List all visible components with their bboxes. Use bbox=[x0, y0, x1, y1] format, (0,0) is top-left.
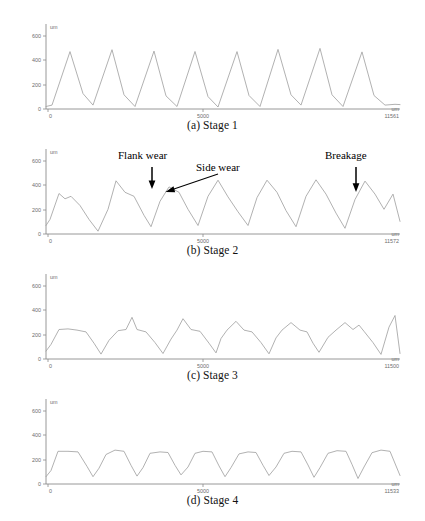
axes-stage-4 bbox=[43, 399, 400, 487]
y-tick-600: 600 bbox=[32, 408, 41, 414]
y-axis-unit-label: um bbox=[50, 399, 58, 405]
chart-panel-stage-2: 0 200 400 600 0 5000 um um 11572 bbox=[0, 139, 425, 264]
tick-labels-stage-2: 0 200 400 600 0 5000 um um 11572 bbox=[32, 149, 399, 244]
y-tick-200: 200 bbox=[32, 457, 41, 463]
caption-stage-4: (d) Stage 4 bbox=[0, 494, 425, 506]
svg-chart-stage-4: 0 200 400 600 0 5000 um um 11533 bbox=[0, 389, 425, 496]
plot-area-stage-2: 0 200 400 600 0 5000 um um 11572 bbox=[0, 139, 425, 246]
plot-area-stage-1: 0 200 400 600 0 5000 um um 11561 bbox=[0, 14, 425, 121]
y-tick-200: 200 bbox=[32, 207, 41, 213]
y-tick-400: 400 bbox=[32, 182, 41, 188]
y-tick-400: 400 bbox=[32, 432, 41, 438]
axes-stage-1 bbox=[43, 24, 400, 112]
chart-panel-stage-1: 0 200 400 600 0 5000 um um 11561 (a) Sta… bbox=[0, 14, 425, 139]
plot-area-stage-3: 0 200 400 600 0 5000 um um 11500 bbox=[0, 264, 425, 371]
tick-labels-stage-3: 0 200 400 600 0 5000 um um 11500 bbox=[32, 274, 399, 369]
y-tick-200: 200 bbox=[32, 82, 41, 88]
x-axis-unit-label: um bbox=[392, 481, 400, 487]
profile-line-stage-4 bbox=[46, 450, 400, 478]
figure-tool-wear-stages: 0 200 400 600 0 5000 um um 11561 (a) Sta… bbox=[0, 0, 425, 521]
svg-chart-stage-2: 0 200 400 600 0 5000 um um 11572 bbox=[0, 139, 425, 246]
y-tick-0: 0 bbox=[38, 231, 41, 237]
y-axis-unit-label: um bbox=[50, 149, 58, 155]
caption-stage-2: (b) Stage 2 bbox=[0, 244, 425, 256]
y-tick-0: 0 bbox=[38, 106, 41, 112]
y-tick-600: 600 bbox=[32, 158, 41, 164]
profile-line-stage-2 bbox=[46, 180, 400, 231]
y-tick-600: 600 bbox=[32, 283, 41, 289]
figure-header-partial-text bbox=[0, 0, 425, 8]
y-tick-0: 0 bbox=[38, 481, 41, 487]
y-axis-unit-label: um bbox=[50, 274, 58, 280]
profile-line-stage-1 bbox=[46, 48, 400, 107]
chart-panel-stage-4: 0 200 400 600 0 5000 um um 11533 (d) Sta… bbox=[0, 389, 425, 514]
caption-stage-3: (c) Stage 3 bbox=[0, 369, 425, 381]
y-tick-0: 0 bbox=[38, 356, 41, 362]
caption-stage-1: (a) Stage 1 bbox=[0, 119, 425, 131]
y-tick-400: 400 bbox=[32, 57, 41, 63]
svg-chart-stage-3: 0 200 400 600 0 5000 um um 11500 bbox=[0, 264, 425, 371]
x-axis-unit-label: um bbox=[392, 231, 400, 237]
y-tick-200: 200 bbox=[32, 332, 41, 338]
y-axis-unit-label: um bbox=[50, 24, 58, 30]
chart-panel-stage-3: 0 200 400 600 0 5000 um um 11500 (c) Sta… bbox=[0, 264, 425, 389]
plot-area-stage-4: 0 200 400 600 0 5000 um um 11533 bbox=[0, 389, 425, 496]
profile-line-stage-3 bbox=[46, 316, 400, 355]
y-tick-600: 600 bbox=[32, 33, 41, 39]
y-tick-400: 400 bbox=[32, 307, 41, 313]
tick-labels-stage-4: 0 200 400 600 0 5000 um um 11533 bbox=[32, 399, 399, 494]
svg-chart-stage-1: 0 200 400 600 0 5000 um um 11561 bbox=[0, 14, 425, 121]
x-axis-unit-label: um bbox=[392, 106, 400, 112]
axes-stage-3 bbox=[43, 274, 400, 362]
x-axis-unit-label: um bbox=[392, 356, 400, 362]
